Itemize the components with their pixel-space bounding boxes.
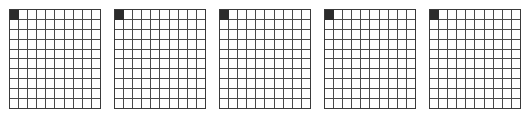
- grid-cell-empty[interactable]: [475, 69, 484, 79]
- grid-cell-empty[interactable]: [142, 19, 151, 29]
- grid-cell-empty[interactable]: [292, 29, 301, 39]
- grid-cell-empty[interactable]: [220, 39, 229, 49]
- grid-cell-empty[interactable]: [502, 49, 511, 59]
- grid-cell-empty[interactable]: [256, 59, 265, 69]
- grid-cell-empty[interactable]: [448, 10, 457, 20]
- grid-cell-empty[interactable]: [457, 39, 466, 49]
- grid-cell-empty[interactable]: [55, 89, 64, 99]
- grid-cell-empty[interactable]: [334, 10, 343, 20]
- grid-cell-empty[interactable]: [379, 39, 388, 49]
- grid-cell-empty[interactable]: [10, 99, 19, 109]
- grid-cell-empty[interactable]: [388, 49, 397, 59]
- grid-cell-empty[interactable]: [457, 59, 466, 69]
- grid-cell-empty[interactable]: [388, 69, 397, 79]
- grid-cell-empty[interactable]: [256, 89, 265, 99]
- grid-cell-empty[interactable]: [178, 19, 187, 29]
- grid-cell-empty[interactable]: [142, 59, 151, 69]
- grid-cell-empty[interactable]: [283, 99, 292, 109]
- grid-1[interactable]: [9, 9, 101, 109]
- grid-cell-empty[interactable]: [397, 19, 406, 29]
- grid-cell-empty[interactable]: [46, 79, 55, 89]
- grid-cell-empty[interactable]: [19, 79, 28, 89]
- grid-cell-empty[interactable]: [457, 79, 466, 89]
- grid-cell-empty[interactable]: [370, 39, 379, 49]
- grid-cell-empty[interactable]: [448, 99, 457, 109]
- grid-cell-empty[interactable]: [196, 89, 205, 99]
- grid-cell-empty[interactable]: [178, 99, 187, 109]
- grid-cell-empty[interactable]: [493, 39, 502, 49]
- grid-cell-empty[interactable]: [493, 29, 502, 39]
- grid-cell-empty[interactable]: [73, 99, 82, 109]
- grid-cell-empty[interactable]: [256, 49, 265, 59]
- grid-cell-empty[interactable]: [10, 69, 19, 79]
- grid-cell-empty[interactable]: [178, 39, 187, 49]
- grid-cell-empty[interactable]: [502, 99, 511, 109]
- grid-cell-empty[interactable]: [196, 19, 205, 29]
- grid-cell-empty[interactable]: [151, 79, 160, 89]
- grid-cell-empty[interactable]: [343, 10, 352, 20]
- grid-cell-empty[interactable]: [325, 49, 334, 59]
- grid-cell-empty[interactable]: [142, 10, 151, 20]
- grid-cell-empty[interactable]: [334, 49, 343, 59]
- grid-cell-empty[interactable]: [124, 49, 133, 59]
- grid-cell-empty[interactable]: [475, 10, 484, 20]
- grid-cell-empty[interactable]: [187, 69, 196, 79]
- grid-cell-empty[interactable]: [406, 29, 415, 39]
- grid-cell-empty[interactable]: [361, 59, 370, 69]
- grid-cell-empty[interactable]: [220, 69, 229, 79]
- grid-cell-filled[interactable]: [325, 10, 334, 20]
- grid-cell-empty[interactable]: [439, 79, 448, 89]
- grid-cell-empty[interactable]: [133, 89, 142, 99]
- grid-cell-empty[interactable]: [187, 49, 196, 59]
- grid-cell-empty[interactable]: [370, 59, 379, 69]
- grid-cell-empty[interactable]: [334, 19, 343, 29]
- grid-cell-empty[interactable]: [46, 19, 55, 29]
- grid-cell-empty[interactable]: [142, 39, 151, 49]
- grid-cell-empty[interactable]: [160, 10, 169, 20]
- grid-cell-empty[interactable]: [247, 10, 256, 20]
- grid-cell-empty[interactable]: [292, 99, 301, 109]
- grid-cell-empty[interactable]: [37, 89, 46, 99]
- grid-cell-empty[interactable]: [64, 10, 73, 20]
- grid-cell-empty[interactable]: [388, 19, 397, 29]
- grid-cell-empty[interactable]: [133, 10, 142, 20]
- grid-cell-empty[interactable]: [115, 39, 124, 49]
- grid-cell-empty[interactable]: [37, 39, 46, 49]
- grid-cell-empty[interactable]: [19, 39, 28, 49]
- grid-cell-empty[interactable]: [379, 19, 388, 29]
- grid-cell-empty[interactable]: [430, 29, 439, 39]
- grid-cell-empty[interactable]: [493, 89, 502, 99]
- grid-cell-empty[interactable]: [115, 89, 124, 99]
- grid-cell-empty[interactable]: [151, 10, 160, 20]
- grid-cell-empty[interactable]: [187, 19, 196, 29]
- grid-cell-empty[interactable]: [343, 19, 352, 29]
- grid-cell-empty[interactable]: [475, 29, 484, 39]
- grid-cell-empty[interactable]: [124, 39, 133, 49]
- grid-cell-empty[interactable]: [37, 79, 46, 89]
- grid-cell-empty[interactable]: [457, 19, 466, 29]
- grid-cell-empty[interactable]: [352, 59, 361, 69]
- grid-cell-empty[interactable]: [439, 49, 448, 59]
- grid-cell-empty[interactable]: [160, 89, 169, 99]
- grid-cell-empty[interactable]: [292, 19, 301, 29]
- grid-cell-empty[interactable]: [151, 59, 160, 69]
- grid-cell-empty[interactable]: [502, 69, 511, 79]
- grid-cell-empty[interactable]: [379, 89, 388, 99]
- grid-cell-empty[interactable]: [169, 69, 178, 79]
- grid-cell-empty[interactable]: [91, 39, 100, 49]
- grid-cell-empty[interactable]: [82, 10, 91, 20]
- grid-cell-empty[interactable]: [151, 49, 160, 59]
- grid-cell-empty[interactable]: [430, 89, 439, 99]
- grid-cell-empty[interactable]: [475, 59, 484, 69]
- grid-cell-empty[interactable]: [220, 59, 229, 69]
- grid-cell-empty[interactable]: [37, 59, 46, 69]
- grid-cell-empty[interactable]: [256, 19, 265, 29]
- grid-cell-empty[interactable]: [187, 59, 196, 69]
- grid-cell-empty[interactable]: [55, 29, 64, 39]
- grid-cell-empty[interactable]: [283, 59, 292, 69]
- grid-cell-empty[interactable]: [238, 29, 247, 39]
- grid-cell-empty[interactable]: [283, 10, 292, 20]
- grid-cell-empty[interactable]: [283, 19, 292, 29]
- grid-cell-empty[interactable]: [82, 99, 91, 109]
- grid-cell-empty[interactable]: [301, 79, 310, 89]
